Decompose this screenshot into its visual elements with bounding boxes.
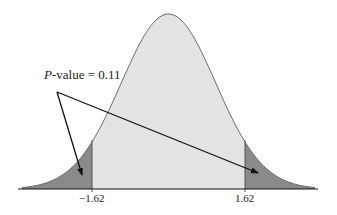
p-symbol: P [44,67,52,82]
right-tail-area [245,142,315,189]
normal-curve-chart [0,0,337,215]
p-value-annotation: P-value = 0.11 [44,67,121,83]
right-tick-label: 1.62 [235,192,254,204]
curve-body-area [92,14,245,189]
p-value-text: -value = 0.11 [52,67,121,82]
left-tail-area [22,142,92,189]
arrow-to-left-tail [57,92,82,175]
left-tick-label: −1.62 [79,192,104,204]
